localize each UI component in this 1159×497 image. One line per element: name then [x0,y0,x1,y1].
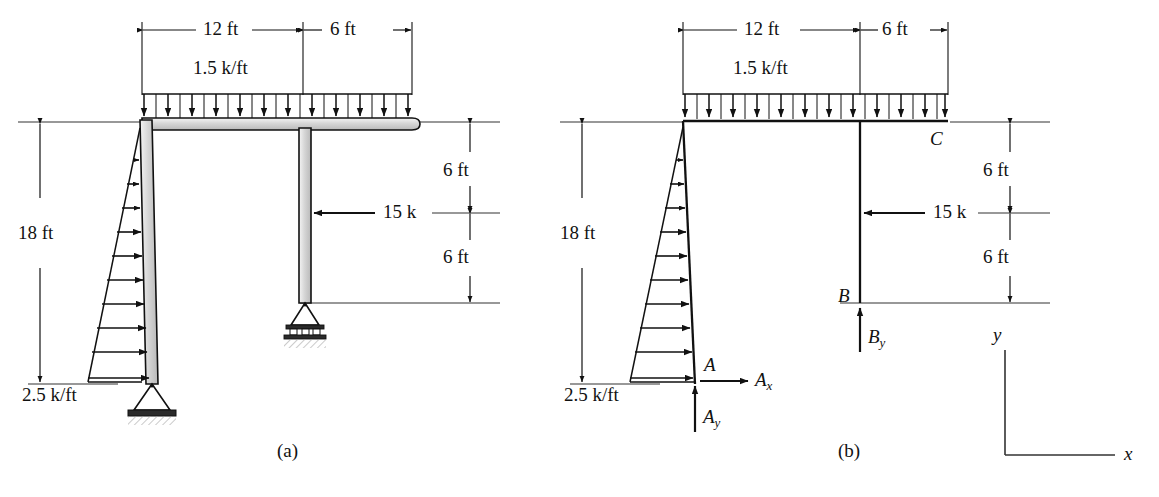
reaction-by-letter: B [868,326,880,347]
panel-b-caption: (b) [838,441,860,460]
panel-a-left-column [140,120,158,384]
panel-a-label-6ft-top: 6 ft [330,19,356,38]
panel-a-top-beam [142,118,420,130]
panel-b-label-6ft-upper: 6 ft [983,160,1009,179]
panel-b-label-12ft: 12 ft [744,19,779,38]
panel-a [18,22,500,425]
panel-a-label-triangular-load: 2.5 k/ft [22,385,77,404]
panel-a-label-uniform-load: 1.5 k/ft [193,58,248,77]
joint-label-b: B [838,286,850,305]
joint-label-a: A [704,355,716,374]
panel-b [560,22,1115,455]
panel-b-label-18ft: 18 ft [560,223,595,242]
panel-a-label-18ft: 18 ft [18,223,53,242]
panel-a-label-6ft-upper: 6 ft [443,160,469,179]
panel-a-right-column [299,128,311,303]
reaction-label-by: By [868,327,885,349]
panel-a-label-15k: 15 k [383,202,416,221]
panel-a-triangular-load [88,128,149,382]
panel-a-frame [140,118,420,384]
figure-canvas: 12 ft 6 ft 1.5 k/ft 18 ft 2.5 k/ft 6 ft … [0,0,1159,497]
panel-b-uniform-load-arrows [685,94,945,117]
panel-a-label-6ft-lower: 6 ft [443,247,469,266]
axis-label-x: x [1124,444,1132,463]
panel-a-dimension-extensions [142,22,412,95]
reaction-ay-subscript: y [715,415,721,430]
roller-support-icon [284,303,326,348]
reaction-label-ax: Ax [755,370,772,392]
reaction-ax-subscript: x [767,378,773,393]
reaction-by-subscript: y [880,335,886,350]
panel-b-frame [683,121,948,384]
panel-b-label-15k: 15 k [933,202,966,221]
panel-a-label-12ft: 12 ft [203,19,238,38]
panel-a-caption: (a) [277,441,298,460]
panel-b-dimension-extensions [683,22,948,95]
reaction-ay-letter: A [703,406,715,427]
panel-b-label-6ft-lower: 6 ft [983,247,1009,266]
joint-label-c: C [930,129,943,148]
reaction-ax-letter: A [755,369,767,390]
panel-b-left-column [683,121,695,384]
pin-support-icon [128,384,176,425]
panel-b-label-triangular-load: 2.5 k/ft [564,385,619,404]
coordinate-axes [1005,350,1115,455]
panel-b-label-6ft-top: 6 ft [882,19,908,38]
axis-label-y: y [993,325,1001,344]
reaction-label-ay: Ay [703,407,720,429]
panel-b-label-uniform-load: 1.5 k/ft [733,58,788,77]
